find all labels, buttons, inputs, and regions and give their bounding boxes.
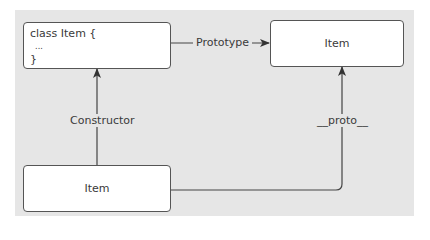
prototype-object-box: Item bbox=[270, 20, 404, 67]
instance-box: Item bbox=[23, 165, 171, 212]
code-line-1: class Item { bbox=[30, 27, 164, 41]
prototype-edge-label: Prototype bbox=[193, 36, 252, 49]
instance-label: Item bbox=[84, 182, 109, 195]
prototype-object-label: Item bbox=[324, 37, 349, 50]
constructor-edge-label: Constructor bbox=[67, 114, 138, 127]
proto-edge-label: __proto__ bbox=[314, 114, 371, 127]
code-line-3: } bbox=[30, 53, 164, 67]
class-definition-box: class Item { ... } bbox=[23, 22, 171, 69]
code-line-2: ... bbox=[30, 41, 164, 53]
